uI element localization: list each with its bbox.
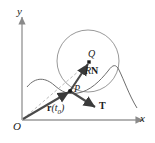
position-vector-label: r(t0) (47, 103, 64, 116)
position-vector-paren-close: ) (61, 102, 64, 113)
point-P-label: P (74, 84, 80, 94)
x-axis-label: x (140, 113, 145, 124)
diagram-svg (0, 0, 155, 143)
point-Q-dot (87, 60, 90, 63)
point-Q-label: Q (88, 49, 95, 59)
radius-normal-vector-label: RN (85, 66, 98, 76)
tangent-vector-label: T (99, 101, 106, 111)
y-axis-label: y (17, 6, 22, 17)
point-P-dot (68, 89, 72, 93)
figure-canvas: y x O P Q T RN r(t0) (0, 0, 155, 143)
normal-unit-vector-label: N (91, 65, 98, 76)
origin-label: O (13, 121, 21, 132)
